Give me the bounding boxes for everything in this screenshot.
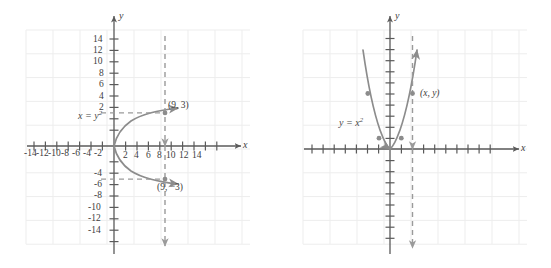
y-tick-label-left-2: 10 — [93, 57, 103, 67]
x-tick-label-left-3: -8 — [61, 149, 69, 159]
point-label-9-neg3: (9, −3) — [157, 183, 183, 193]
equation-label-right: y = x2 — [339, 117, 363, 128]
x-tick-label-left-2: -10 — [48, 149, 61, 159]
y-tick-label-left-7: -4 — [94, 169, 102, 179]
x-tick-label-left-12: 12 — [179, 151, 189, 161]
equation-label-left: x = y2 — [78, 110, 102, 121]
point-neg1-1 — [377, 136, 382, 141]
chart-panel-right: y x y = x2 (x, y) — [275, 0, 551, 268]
x-tick-label-left-11: 10 — [166, 151, 176, 161]
y-tick-label-left-5: 4 — [99, 92, 104, 102]
point-label-x-y: (x, y) — [420, 89, 440, 99]
y-tick-label-left-10: -10 — [88, 203, 101, 213]
chart-panel-left: -14 -12 -10 -8 -6 -4 -2 2 4 6 8 10 12 14… — [0, 0, 275, 268]
x-tick-label-left-1: -12 — [36, 149, 49, 159]
x-tick-label-left-13: 14 — [192, 151, 202, 161]
chart-svg-right — [275, 0, 551, 268]
equation-label-left-exponent: 2 — [99, 109, 102, 116]
y-tick-label-left-12: -14 — [88, 226, 101, 236]
point-neg2-4 — [365, 91, 370, 96]
y-tick-label-left-1: 12 — [93, 46, 103, 56]
figure-container: -14 -12 -10 -8 -6 -4 -2 2 4 6 8 10 12 14… — [0, 0, 551, 268]
x-axis-label-left: x — [243, 140, 247, 150]
equation-label-left-text: x = y — [78, 110, 99, 121]
point-2-4 — [410, 91, 415, 96]
y-tick-label-left-9: -8 — [94, 191, 102, 201]
x-tick-label-left-4: -6 — [72, 149, 80, 159]
x-tick-label-left-0: -14 — [24, 149, 37, 159]
equation-label-right-exponent: 2 — [360, 116, 363, 123]
point-1-1 — [399, 136, 404, 141]
x-tick-label-left-10: 8 — [157, 151, 162, 161]
point-9-neg3 — [163, 177, 168, 182]
y-tick-label-left-4: 6 — [99, 80, 104, 90]
y-tick-label-left-11: -12 — [88, 214, 101, 224]
x-tick-label-left-7: 2 — [123, 151, 128, 161]
y-tick-label-left-3: 8 — [99, 69, 104, 79]
x-tick-label-left-8: 4 — [134, 151, 139, 161]
x-tick-label-left-9: 6 — [146, 151, 151, 161]
grid-lines-left — [26, 30, 250, 244]
y-tick-label-left-8: -6 — [94, 180, 102, 190]
point-9-3 — [163, 111, 168, 116]
point-label-9-3: (9, 3) — [168, 101, 189, 111]
y-axis-label-right: y — [395, 11, 399, 21]
y-axis-label-left: y — [119, 11, 123, 21]
x-axis-label-right: x — [521, 143, 525, 153]
x-tick-label-left-5: -4 — [83, 149, 91, 159]
chart-svg-left — [0, 0, 275, 268]
x-tick-label-left-6: -2 — [94, 149, 102, 159]
y-tick-label-left-0: 14 — [93, 35, 103, 45]
equation-label-right-text: y = x — [339, 117, 360, 128]
